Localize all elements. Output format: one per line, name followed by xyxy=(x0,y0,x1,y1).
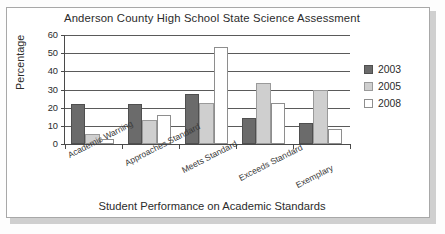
y-tick-mark xyxy=(61,126,65,127)
y-tick-mark xyxy=(61,71,65,72)
y-tick-mark xyxy=(61,53,65,54)
chart-title: Anderson County High School State Scienc… xyxy=(52,12,372,24)
bar xyxy=(299,123,313,144)
legend-item: 2005 xyxy=(364,78,401,95)
legend-swatch-icon xyxy=(364,82,373,91)
y-tick-label: 50 xyxy=(48,48,58,58)
y-tick-label: 60 xyxy=(48,30,58,40)
y-tick-label: 0 xyxy=(53,139,58,149)
bar xyxy=(199,103,213,144)
x-tick-mark xyxy=(65,144,66,149)
legend-swatch-icon xyxy=(364,65,373,74)
legend-label: 2005 xyxy=(378,81,401,92)
bar-group xyxy=(128,35,172,144)
bar xyxy=(328,129,342,144)
legend-item: 2008 xyxy=(364,95,401,112)
legend-swatch-icon xyxy=(364,99,373,108)
legend-item: 2003 xyxy=(364,61,401,78)
bar xyxy=(242,118,256,144)
y-tick-label: 30 xyxy=(48,85,58,95)
bar xyxy=(71,104,85,144)
bar xyxy=(313,90,327,145)
y-tick-mark xyxy=(61,35,65,36)
bar-group xyxy=(242,35,286,144)
bar xyxy=(142,120,156,144)
bar xyxy=(271,103,285,144)
x-tick-mark xyxy=(122,144,123,149)
y-axis-label: Percentage xyxy=(14,35,26,90)
legend: 200320052008 xyxy=(364,61,401,112)
x-axis-label: Student Performance on Academic Standard… xyxy=(52,200,372,212)
bar xyxy=(256,83,270,144)
bar-group xyxy=(299,35,343,144)
figure: Anderson County High School State Scienc… xyxy=(0,0,445,234)
y-tick-mark xyxy=(61,108,65,109)
x-tick-mark xyxy=(350,144,351,149)
plot-area: 0102030405060 xyxy=(64,35,350,145)
y-tick-label: 20 xyxy=(48,103,58,113)
legend-label: 2008 xyxy=(378,98,401,109)
y-tick-label: 10 xyxy=(48,121,58,131)
legend-label: 2003 xyxy=(378,64,401,75)
bar xyxy=(214,47,228,144)
bar-group xyxy=(71,35,115,144)
y-tick-mark xyxy=(61,90,65,91)
y-tick-label: 40 xyxy=(48,66,58,76)
x-tick-mark xyxy=(179,144,180,149)
